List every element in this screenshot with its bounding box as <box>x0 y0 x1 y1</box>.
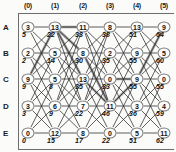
node-value-D5: 59 <box>156 110 164 117</box>
node-value-E5: 62 <box>156 137 164 144</box>
node-value-A5: 64 <box>156 31 164 38</box>
node-value-A0: 5 <box>22 31 26 38</box>
node-value-E1: 15 <box>47 137 55 144</box>
node-value-D2: 22 <box>75 110 83 117</box>
column-header-4: (4) <box>133 2 141 9</box>
node-value-C0: 9 <box>22 83 26 90</box>
column-header-5: (5) <box>160 2 168 9</box>
node-value-B1: 14 <box>47 57 55 64</box>
column-header-1: (1) <box>51 2 59 9</box>
node-value-C5: 55 <box>156 83 164 90</box>
node-value-B0: 2 <box>22 57 26 64</box>
row-label-c: C <box>3 75 9 84</box>
node-value-A4: 51 <box>129 31 137 38</box>
node-value-E2: 17 <box>75 137 83 144</box>
row-label-d: D <box>3 102 9 111</box>
node-value-A2: 33 <box>75 31 83 38</box>
node-value-B3: 35 <box>102 57 110 64</box>
node-value-B4: 55 <box>129 57 137 64</box>
node-value-A3: 38 <box>102 31 110 38</box>
node-value-D1: 9 <box>49 110 53 117</box>
node-value-E3: 22 <box>102 137 110 144</box>
plot-frame <box>18 13 174 150</box>
node-value-D4: 36 <box>129 110 137 117</box>
row-label-a: A <box>3 23 9 32</box>
column-header-0: (0) <box>24 2 32 9</box>
node-value-C4: 55 <box>129 83 137 90</box>
node-value-D0: 3 <box>22 110 26 117</box>
node-value-E0: 0 <box>22 137 26 144</box>
node-value-B2: 30 <box>75 57 83 64</box>
node-value-C1: 8 <box>49 83 53 90</box>
column-header-3: (3) <box>106 2 114 9</box>
column-header-2: (2) <box>79 2 87 9</box>
node-value-E4: 51 <box>129 137 137 144</box>
row-label-e: E <box>3 129 8 138</box>
node-value-D3: 46 <box>102 110 110 117</box>
node-value-A1: 22 <box>47 31 55 38</box>
trellis-diagram: (0)(1)(2)(3)(4)(5) ABCDE 351322113383813… <box>0 0 176 152</box>
node-value-C3: 33 <box>102 83 110 90</box>
node-value-C2: 35 <box>75 83 83 90</box>
node-value-B5: 60 <box>156 57 164 64</box>
row-label-b: B <box>3 49 9 58</box>
